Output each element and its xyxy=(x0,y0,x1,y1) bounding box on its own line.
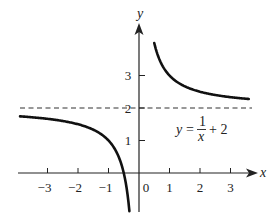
x-axis-label: x xyxy=(259,165,267,180)
axes xyxy=(18,23,258,212)
x-tick-label: 2 xyxy=(197,180,204,195)
x-tick-label: −3 xyxy=(38,180,52,195)
x-tick-label: 3 xyxy=(227,180,234,195)
x-tick-label: −2 xyxy=(68,180,82,195)
curve-right-branch xyxy=(154,43,249,99)
y-tick-label: 1 xyxy=(125,133,132,148)
equation-label: y = 1 x + 2 xyxy=(174,114,227,144)
y-tick-label: 2 xyxy=(125,101,132,116)
function-plot: −3−2−11230123xy y = 1 x + 2 xyxy=(0,0,277,216)
x-tick-label: −1 xyxy=(99,180,113,195)
origin-label: 0 xyxy=(143,180,150,195)
equation-denominator: x xyxy=(197,129,205,144)
x-tick-label: 1 xyxy=(166,180,173,195)
equation-rest: + 2 xyxy=(209,122,227,137)
equation-numerator: 1 xyxy=(199,114,206,129)
y-tick-label: 3 xyxy=(125,68,132,83)
equation-equals: = xyxy=(186,122,194,137)
labels: −3−2−11230123xy xyxy=(38,6,267,195)
curve-left-branch xyxy=(20,116,129,211)
equation-lhs: y xyxy=(174,122,183,137)
y-axis-label: y xyxy=(135,6,144,21)
